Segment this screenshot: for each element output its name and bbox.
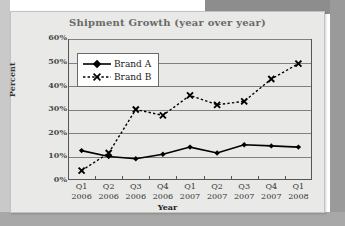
x-tick-label: Q12008 [281, 182, 315, 202]
legend-item-brand-b: Brand B [82, 70, 151, 83]
y-tick-label: 10% [29, 151, 67, 160]
background-left-band [0, 0, 10, 226]
y-tick-label: 20% [29, 128, 67, 137]
y-tick-label: 50% [29, 57, 67, 66]
y-tick-label: 30% [29, 104, 67, 113]
y-axis-title: Percent [7, 62, 17, 97]
legend-key-brand-b [82, 71, 112, 83]
x-tick-quarter: Q1 [281, 182, 315, 192]
legend-key-brand-a [82, 58, 112, 70]
background-right-band [330, 0, 345, 226]
y-axis-tick-labels: 60% 50% 40% 30% 20% 10% 0% [29, 33, 67, 186]
chart-title: Shipment Growth (year over year) [11, 17, 324, 28]
legend-label-brand-a: Brand A [112, 59, 151, 69]
y-tick-label: 60% [29, 33, 67, 42]
chart-card: Shipment Growth (year over year) Percent… [10, 11, 325, 213]
chart-legend: Brand A Brand B [77, 53, 159, 87]
y-tick-label: 0% [29, 175, 67, 184]
x-tick-year: 2008 [281, 192, 315, 202]
background-bottom-band [0, 212, 345, 226]
x-axis-title: Year [11, 202, 324, 212]
y-tick-label: 40% [29, 81, 67, 90]
legend-item-brand-a: Brand A [82, 57, 151, 70]
legend-label-brand-b: Brand B [112, 72, 151, 82]
screenshot-root: Shipment Growth (year over year) Percent… [0, 0, 345, 226]
